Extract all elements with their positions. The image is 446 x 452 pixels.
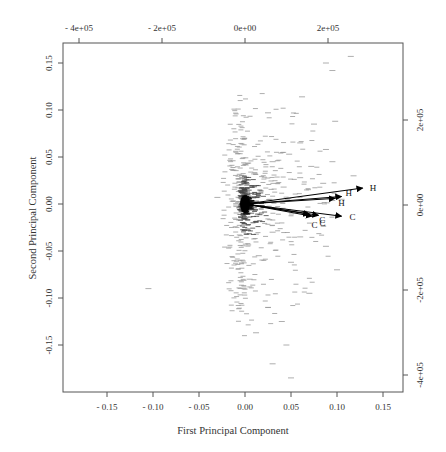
top-tick-label: - 4e+05 [65, 23, 93, 33]
y-tick-label: 0.05 [44, 149, 54, 165]
x-tick-label: 0.15 [375, 402, 391, 412]
top-tick-label: 2e+05 [317, 23, 340, 33]
top-tick-label: 0e+00 [234, 23, 257, 33]
loading-label: H [338, 198, 345, 208]
x-tick-label: - 0.05 [189, 402, 210, 412]
y-tick-label: -0.05 [44, 241, 54, 260]
y-axis-title: Second Principal Component [27, 156, 38, 279]
y-tick-label: -0.10 [44, 288, 54, 307]
x-axis-title: First Principal Component [177, 425, 288, 436]
loading-label: C [311, 220, 317, 230]
loading-label: C [350, 212, 356, 222]
right-tick-label: -4e+05 [415, 362, 425, 388]
y-axis-right: 2e+050e+00-2e+05-4e+05 [403, 108, 425, 388]
y-tick-label: 0.15 [44, 55, 54, 71]
x-axis-bottom: - 0.15- 0.10- 0.050.000.050.100.15 [97, 392, 392, 412]
y-tick-label: 0.10 [44, 102, 54, 118]
x-tick-label: - 0.15 [97, 402, 118, 412]
y-axis-left: 0.150.100.050.00-0.05-0.10-0.15 [44, 55, 63, 355]
biplot-chart: HHHCCCC - 0.15- 0.10- 0.050.000.050.100.… [0, 0, 446, 452]
right-tick-label: 0e+00 [415, 193, 425, 216]
top-tick-label: - 2e+05 [148, 23, 176, 33]
right-tick-label: -2e+05 [415, 277, 425, 303]
x-tick-label: - 0.10 [143, 402, 164, 412]
x-axis-top: - 4e+05- 2e+050e+002e+05 [65, 23, 340, 43]
x-tick-label: 0.05 [283, 402, 299, 412]
y-tick-label: 0.00 [44, 196, 54, 212]
x-tick-label: 0.10 [329, 402, 345, 412]
x-tick-label: 0.00 [237, 402, 253, 412]
loading-label: H [346, 188, 353, 198]
y-tick-label: -0.15 [44, 335, 54, 354]
right-tick-label: 2e+05 [415, 108, 425, 131]
loading-label: C [319, 215, 325, 225]
loading-label: H [370, 183, 377, 193]
